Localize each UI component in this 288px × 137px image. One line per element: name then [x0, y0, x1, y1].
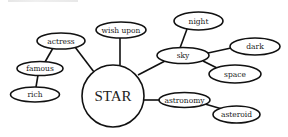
- node-space: space: [209, 65, 261, 83]
- node-dark: dark: [230, 38, 280, 55]
- edge-star-sky: [138, 61, 165, 75]
- node-label-rich: rich: [27, 90, 42, 99]
- node-famous: famous: [17, 62, 63, 76]
- node-label-dark: dark: [246, 42, 264, 51]
- node-label-actress: actress: [47, 37, 75, 46]
- node-asteroid: asteroid: [213, 106, 260, 123]
- edge-sky-dark: [208, 48, 231, 53]
- node-label-night: night: [189, 17, 209, 26]
- word-web-diagram: STAR actress famous rich wish upon sky n…: [0, 0, 288, 137]
- node-label-famous: famous: [26, 64, 54, 73]
- node-label-star: STAR: [94, 88, 131, 104]
- edge-star-actress: [75, 47, 94, 72]
- edge-famous-rich: [36, 75, 38, 87]
- node-astronomy: astronomy: [159, 93, 210, 108]
- edge-actress-famous: [45, 48, 53, 62]
- node-wish-upon: wish upon: [96, 22, 146, 38]
- node-label-wish-upon: wish upon: [102, 26, 141, 35]
- edge-sky-night: [180, 29, 187, 48]
- node-actress: actress: [37, 33, 85, 49]
- node-night: night: [174, 12, 223, 30]
- node-label-asteroid: asteroid: [221, 110, 252, 119]
- node-label-sky: sky: [177, 51, 190, 60]
- edge-sky-space: [203, 61, 217, 68]
- node-label-space: space: [224, 70, 246, 79]
- node-sky: sky: [157, 48, 209, 64]
- node-rich: rich: [11, 87, 60, 102]
- node-label-astronomy: astronomy: [164, 96, 205, 105]
- node-star: STAR: [82, 65, 144, 127]
